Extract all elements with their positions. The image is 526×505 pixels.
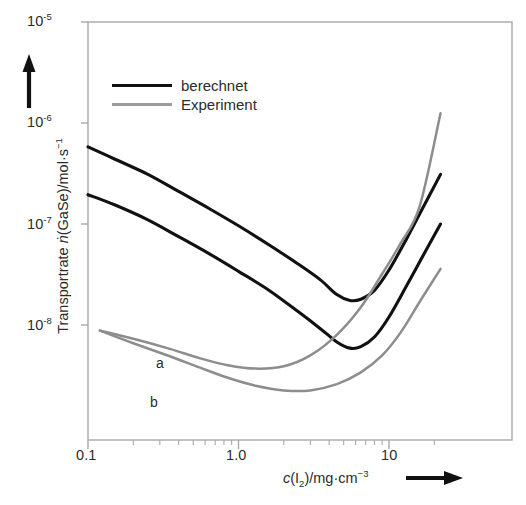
curve-annotation-a: a bbox=[156, 355, 164, 371]
x-axis-title: c(I2)/mg·cm−3 bbox=[283, 470, 368, 486]
data-curves bbox=[88, 113, 441, 391]
curve-annotation-b: b bbox=[150, 394, 158, 410]
y-axis-arrow-icon bbox=[23, 54, 36, 108]
y-tick-label-3: 10-8 bbox=[27, 317, 52, 333]
series-line-2 bbox=[100, 113, 441, 368]
y-tick-label-2: 10-7 bbox=[27, 216, 52, 232]
x-axis-arrow-icon bbox=[406, 471, 463, 485]
series-line-0 bbox=[88, 147, 441, 301]
legend-swatch-berechnet bbox=[112, 84, 172, 87]
x-tick-label-2: 10 bbox=[381, 447, 397, 463]
chart-legend: berechnet Experiment bbox=[112, 76, 257, 114]
y-tick-label-0: 10-5 bbox=[27, 13, 52, 29]
y-axis-title: Transportrate ṅ(GaSe)/mol·s−1 bbox=[55, 66, 71, 406]
y-tick-label-1: 10-6 bbox=[27, 114, 52, 130]
chart-plot-area bbox=[0, 0, 526, 505]
legend-entry-berechnet: berechnet bbox=[112, 76, 257, 95]
legend-label-berechnet: berechnet bbox=[181, 77, 248, 94]
legend-entry-experiment: Experiment bbox=[112, 95, 257, 114]
x-tick-label-0: 0.1 bbox=[76, 447, 96, 463]
legend-label-experiment: Experiment bbox=[181, 96, 257, 113]
x-tick-label-1: 1.0 bbox=[226, 447, 246, 463]
figure-container: 10-5 10-6 10-7 10-8 0.1 1.0 10 Transport… bbox=[0, 0, 526, 505]
series-line-3 bbox=[100, 269, 441, 391]
legend-swatch-experiment bbox=[112, 103, 172, 106]
